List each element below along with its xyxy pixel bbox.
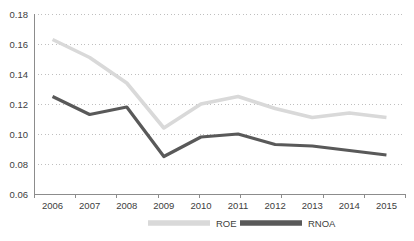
axes	[34, 14, 406, 198]
x-tick-label-2014: 2014	[339, 200, 360, 211]
x-axis-tick-labels: 2006200720082009201020112012201320142015	[42, 200, 397, 211]
series-line-roe	[53, 40, 387, 129]
legend-label-roe: ROE	[216, 218, 237, 229]
y-axis-tick-labels: 0.060.080.100.120.140.160.18	[10, 9, 29, 200]
chart-canvas: 0.060.080.100.120.140.160.18 20062007200…	[0, 0, 414, 241]
x-tick-label-2008: 2008	[116, 200, 137, 211]
y-tick-label-0.08: 0.08	[10, 159, 29, 170]
x-tick-label-2009: 2009	[153, 200, 174, 211]
line-chart: 0.060.080.100.120.140.160.18 20062007200…	[0, 0, 414, 241]
x-tick-label-2007: 2007	[79, 200, 100, 211]
x-tick-label-2006: 2006	[42, 200, 63, 211]
x-tick-label-2015: 2015	[376, 200, 397, 211]
x-tick-label-2010: 2010	[190, 200, 211, 211]
x-tick-label-2011: 2011	[228, 200, 248, 211]
chart-legend: ROERNOA	[148, 218, 336, 229]
y-tick-label-0.10: 0.10	[10, 129, 29, 140]
x-tick-label-2012: 2012	[265, 200, 286, 211]
x-tick-label-2013: 2013	[302, 200, 323, 211]
y-tick-label-0.16: 0.16	[10, 39, 29, 50]
series-line-rnoa	[53, 97, 387, 157]
y-tick-label-0.18: 0.18	[10, 9, 29, 20]
legend-label-rnoa: RNOA	[308, 218, 336, 229]
gridlines	[34, 15, 405, 195]
y-tick-label-0.14: 0.14	[10, 69, 29, 80]
y-tick-label-0.06: 0.06	[10, 189, 29, 200]
data-series	[53, 40, 387, 157]
y-tick-label-0.12: 0.12	[10, 99, 29, 110]
